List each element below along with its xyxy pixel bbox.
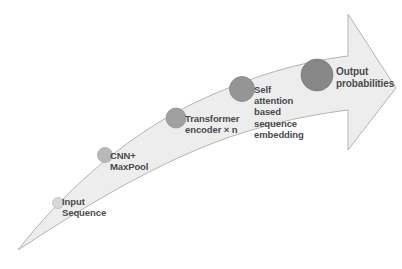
stage-label-self-attention-embedding: Self attention based sequence embedding (254, 84, 304, 140)
stage-node-self-attention-embedding (230, 77, 255, 102)
stage-label-cnn-maxpool: CNN+ MaxPool (110, 150, 148, 172)
stage-label-transformer-encoder: Transformer encoder × n (185, 113, 239, 135)
stage-node-transformer-encoder (166, 108, 186, 128)
stage-label-output-probabilities: Output probabilities (336, 66, 394, 90)
stage-label-input-sequence: Input Sequence (62, 196, 106, 218)
pipeline-diagram: Input Sequence CNN+ MaxPool Transformer … (0, 0, 402, 269)
stage-node-output-probabilities (301, 59, 333, 91)
